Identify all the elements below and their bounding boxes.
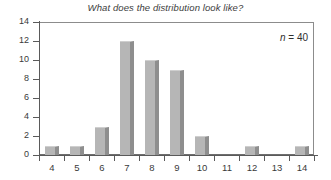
y-axis-label-6: 6	[0, 93, 29, 102]
x-axis-label-13: 13	[265, 163, 289, 173]
annotation-value: 40	[297, 32, 308, 43]
x-tick-13	[264, 156, 265, 161]
bar-6	[95, 127, 109, 156]
x-axis-label-14: 14	[290, 163, 314, 173]
x-axis-label-4: 4	[40, 163, 64, 173]
y-tick-14	[33, 22, 39, 23]
x-axis-label-12: 12	[240, 163, 264, 173]
x-tick-8	[139, 156, 140, 161]
x-tick-7	[114, 156, 115, 161]
x-axis-label-5: 5	[65, 163, 89, 173]
x-axis-label-7: 7	[115, 163, 139, 173]
y-axis-line	[39, 21, 40, 157]
y-axis-label-2: 2	[0, 131, 29, 140]
x-tick-4	[39, 156, 40, 161]
x-tick-9	[164, 156, 165, 161]
bar-7	[120, 41, 134, 155]
y-axis-label-8: 8	[0, 74, 29, 83]
x-tick-14	[289, 156, 290, 161]
chart-title: What does the distribution look like?	[0, 2, 331, 13]
bar-8	[145, 60, 159, 155]
y-axis-label-0: 0	[0, 150, 29, 159]
y-axis-label-10: 10	[0, 55, 29, 64]
y-axis-label-12: 12	[0, 36, 29, 45]
x-tick-5	[64, 156, 65, 161]
bar-5	[70, 146, 84, 156]
x-axis-label-8: 8	[140, 163, 164, 173]
bar-12	[245, 146, 259, 156]
chart-figure: What does the distribution look like? 02…	[0, 0, 331, 180]
bar-4	[45, 146, 59, 156]
sample-size-annotation: n = 40	[280, 32, 308, 43]
y-axis-label-4: 4	[0, 112, 29, 121]
y-tick-10	[33, 60, 39, 61]
x-tick-end	[314, 156, 315, 161]
y-tick-8	[33, 79, 39, 80]
x-axis-label-10: 10	[190, 163, 214, 173]
x-axis-line	[35, 155, 318, 156]
x-tick-12	[239, 156, 240, 161]
y-tick-12	[33, 41, 39, 42]
x-axis-label-6: 6	[90, 163, 114, 173]
y-tick-4	[33, 117, 39, 118]
bar-14	[295, 146, 309, 156]
x-tick-10	[189, 156, 190, 161]
y-tick-6	[33, 98, 39, 99]
bar-9	[170, 70, 184, 156]
x-tick-11	[214, 156, 215, 161]
y-tick-2	[33, 136, 39, 137]
bar-10	[195, 136, 209, 155]
x-axis-label-9: 9	[165, 163, 189, 173]
annotation-equals: =	[285, 32, 296, 43]
x-tick-6	[89, 156, 90, 161]
y-axis-label-14: 14	[0, 17, 29, 26]
x-axis-label-11: 11	[215, 163, 239, 173]
